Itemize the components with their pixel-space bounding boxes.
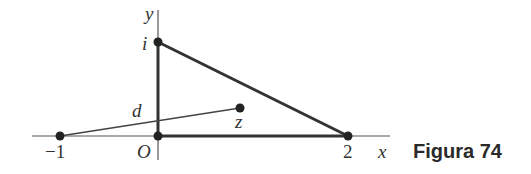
point-minus-one [56, 132, 65, 141]
point-two-label: 2 [343, 141, 353, 162]
figure-caption: Figura 74 [413, 140, 503, 162]
point-i [154, 38, 163, 47]
point-origin [154, 132, 163, 141]
segment-i-2 [158, 42, 348, 136]
point-i-label: i [142, 33, 147, 54]
complex-plane-diagram: y i d z −1 O 2 x Figura 74 [0, 0, 531, 174]
segment-d-label: d [132, 100, 142, 121]
point-minus-one-label: −1 [45, 141, 65, 162]
y-axis-label: y [143, 3, 154, 24]
x-axis-label: x [377, 141, 387, 162]
point-two [344, 132, 353, 141]
point-z-label: z [234, 111, 243, 132]
origin-label: O [137, 141, 151, 162]
segment-d [60, 108, 240, 136]
